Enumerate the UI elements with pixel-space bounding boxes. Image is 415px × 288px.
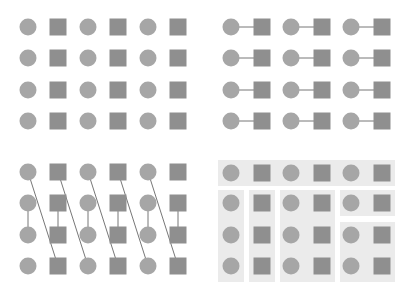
circle-shape — [80, 258, 97, 275]
circle-shape — [343, 258, 360, 275]
circle-shape — [80, 82, 97, 99]
square-shape — [374, 227, 391, 244]
square-shape — [50, 113, 67, 130]
square-shape — [374, 258, 391, 275]
square-shape — [254, 195, 271, 212]
square-shape — [314, 113, 331, 130]
square-shape — [254, 19, 271, 36]
square-shape — [314, 165, 331, 182]
circle-shape — [20, 50, 37, 67]
square-shape — [50, 258, 67, 275]
square-shape — [110, 227, 127, 244]
circle-shape — [80, 227, 97, 244]
circle-shape — [283, 50, 300, 67]
square-shape — [254, 82, 271, 99]
square-shape — [254, 258, 271, 275]
circle-shape — [20, 113, 37, 130]
circle-shape — [283, 227, 300, 244]
circle-shape — [20, 164, 37, 181]
circle-shape — [223, 195, 240, 212]
circle-shape — [223, 258, 240, 275]
connector-line — [118, 172, 148, 266]
square-shape — [254, 165, 271, 182]
circle-shape — [343, 165, 360, 182]
circle-shape — [20, 195, 37, 212]
square-shape — [50, 19, 67, 36]
square-shape — [110, 113, 127, 130]
panel-common-region — [218, 160, 395, 282]
circle-shape — [80, 195, 97, 212]
square-shape — [314, 82, 331, 99]
square-shape — [254, 113, 271, 130]
circle-shape — [140, 227, 157, 244]
square-shape — [170, 82, 187, 99]
square-shape — [314, 195, 331, 212]
connector-line — [28, 172, 58, 266]
gestalt-diagram — [0, 0, 415, 288]
connector-line — [58, 172, 88, 266]
circle-shape — [283, 82, 300, 99]
circle-shape — [80, 19, 97, 36]
square-shape — [110, 82, 127, 99]
panel-connected-pairs — [223, 19, 391, 130]
circle-shape — [20, 82, 37, 99]
circle-shape — [140, 164, 157, 181]
region-box — [218, 160, 395, 186]
circle-shape — [223, 50, 240, 67]
circle-shape — [140, 50, 157, 67]
panel-diagonal-links — [20, 164, 187, 275]
square-shape — [374, 165, 391, 182]
connector-line — [148, 172, 178, 266]
square-shape — [170, 113, 187, 130]
square-shape — [170, 19, 187, 36]
circle-shape — [140, 195, 157, 212]
square-shape — [254, 227, 271, 244]
circle-shape — [343, 113, 360, 130]
circle-shape — [283, 258, 300, 275]
circle-shape — [343, 82, 360, 99]
circle-shape — [80, 50, 97, 67]
square-shape — [170, 164, 187, 181]
circle-shape — [283, 113, 300, 130]
circle-shape — [343, 227, 360, 244]
square-shape — [110, 164, 127, 181]
circle-shape — [80, 113, 97, 130]
square-shape — [170, 227, 187, 244]
circle-shape — [223, 165, 240, 182]
square-shape — [314, 19, 331, 36]
circle-shape — [343, 50, 360, 67]
square-shape — [374, 50, 391, 67]
circle-shape — [283, 195, 300, 212]
square-shape — [170, 258, 187, 275]
circle-shape — [343, 19, 360, 36]
square-shape — [374, 195, 391, 212]
circle-shape — [20, 19, 37, 36]
circle-shape — [283, 165, 300, 182]
square-shape — [170, 195, 187, 212]
square-shape — [374, 82, 391, 99]
circle-shape — [20, 227, 37, 244]
square-shape — [314, 258, 331, 275]
square-shape — [50, 50, 67, 67]
square-shape — [50, 195, 67, 212]
circle-shape — [140, 19, 157, 36]
panel-proximity-grid — [20, 19, 187, 130]
connector-line — [88, 172, 118, 266]
square-shape — [50, 82, 67, 99]
circle-shape — [223, 82, 240, 99]
circle-shape — [140, 113, 157, 130]
square-shape — [110, 258, 127, 275]
circle-shape — [223, 113, 240, 130]
square-shape — [254, 50, 271, 67]
square-shape — [110, 19, 127, 36]
circle-shape — [140, 258, 157, 275]
circle-shape — [223, 19, 240, 36]
circle-shape — [80, 164, 97, 181]
square-shape — [170, 50, 187, 67]
square-shape — [314, 227, 331, 244]
circle-shape — [223, 227, 240, 244]
circle-shape — [343, 195, 360, 212]
square-shape — [110, 50, 127, 67]
circle-shape — [20, 258, 37, 275]
square-shape — [50, 164, 67, 181]
